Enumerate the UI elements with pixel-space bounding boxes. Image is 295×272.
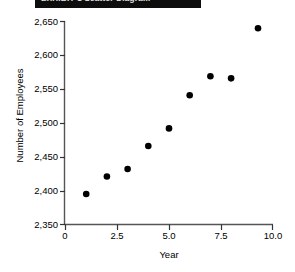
data-point <box>186 92 193 99</box>
data-point <box>166 125 173 132</box>
data-point <box>145 143 152 150</box>
data-point <box>207 73 214 80</box>
data-point <box>124 166 131 173</box>
data-point <box>255 25 262 32</box>
data-point <box>104 173 111 180</box>
plot-area <box>0 0 295 272</box>
scatter-chart: Number of Employees 2,650 2,600 2,550 2,… <box>0 0 295 272</box>
data-point-series <box>83 25 261 197</box>
data-point <box>228 75 235 82</box>
x-axis-ticks <box>66 225 273 231</box>
data-point <box>83 191 90 198</box>
